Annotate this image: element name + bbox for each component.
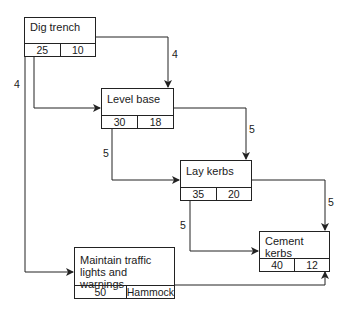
- node-cement-kerbs: Cement kerbs 4012: [259, 231, 330, 272]
- arrow-dig-maintain: [25, 57, 73, 272]
- node-lay-kerbs: Lay kerbs 3520: [180, 160, 252, 201]
- node-duration: 10: [60, 44, 96, 56]
- node-level-base: Level base 3018: [101, 88, 174, 129]
- lag-label: 5: [103, 147, 109, 159]
- node-start: 50: [75, 286, 126, 298]
- node-duration: Hammock: [126, 286, 174, 298]
- node-title: Lay kerbs: [186, 165, 248, 177]
- node-duration: 20: [216, 188, 252, 200]
- arrow-lay-cement-ss: [190, 201, 258, 251]
- node-title: Cement kerbs: [265, 235, 309, 259]
- node-start: 30: [102, 116, 137, 128]
- arrow-level-lay-ff: [173, 108, 246, 159]
- arrow-maintain-cement: [174, 272, 325, 285]
- node-maintain-traffic: Maintain traffic lights and warnings 50H…: [74, 247, 175, 299]
- node-duration: 18: [137, 116, 173, 128]
- lag-label: 4: [14, 78, 20, 90]
- node-title: Level base: [107, 93, 170, 105]
- node-title: Dig trench: [30, 21, 92, 33]
- lag-label: 5: [180, 219, 186, 231]
- lag-label: 4: [172, 48, 178, 60]
- arrow-dig-level-ss: [34, 57, 100, 108]
- node-duration: 12: [294, 259, 329, 271]
- node-start: 40: [260, 259, 294, 271]
- node-start: 25: [25, 44, 60, 56]
- node-start: 35: [181, 188, 216, 200]
- arrow-level-lay-ss: [112, 129, 179, 180]
- lag-label: 5: [328, 196, 334, 208]
- arrow-dig-level-ff: [95, 37, 168, 87]
- node-dig-trench: Dig trench 2510: [24, 17, 96, 57]
- lag-label: 5: [249, 123, 255, 135]
- arrow-lay-cement-ff: [251, 180, 325, 230]
